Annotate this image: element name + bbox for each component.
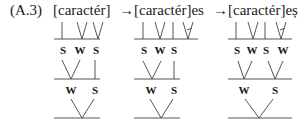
tree-3	[228, 22, 292, 118]
metrical-trees	[0, 0, 306, 128]
tree2-row2-w: W	[146, 84, 157, 96]
tree1-row2-s: S	[92, 84, 98, 96]
tree2-row1-w: W	[155, 44, 166, 56]
tree3-row1-w1: W	[247, 44, 258, 56]
tree3-row2-w: W	[239, 84, 250, 96]
tree2-row1-s1: S	[141, 44, 147, 56]
tree1-row2-w: W	[66, 84, 77, 96]
tree1-row1-s2: S	[93, 44, 99, 56]
tree2-row1-s2: S	[171, 44, 177, 56]
tree3-row1-s2: S	[263, 44, 269, 56]
tree1-row1-w: W	[75, 44, 86, 56]
tree-1	[54, 22, 103, 118]
tree3-row1-w2: W	[278, 44, 289, 56]
tree2-row2-s: S	[171, 84, 177, 96]
tree-2	[134, 22, 198, 118]
tree3-row1-s1: S	[234, 44, 240, 56]
tree1-row1-s1: S	[60, 44, 66, 56]
tree3-row2-s: S	[272, 84, 278, 96]
